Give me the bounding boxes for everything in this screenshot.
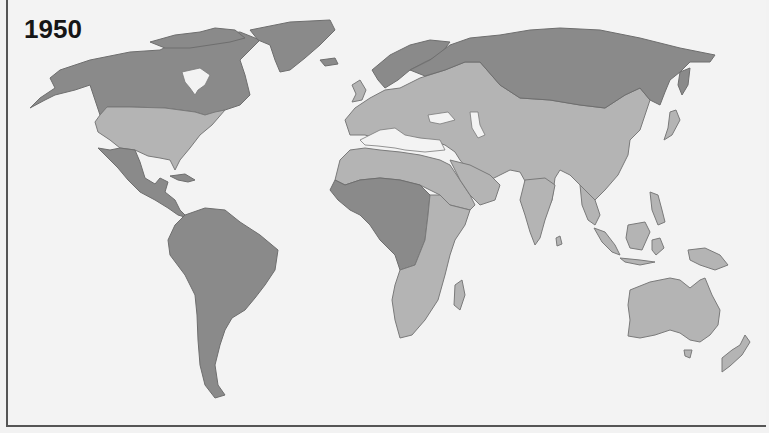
region-philippines — [650, 192, 665, 225]
region-borneo — [626, 222, 650, 250]
region-south-america — [168, 208, 278, 398]
region-tasmania — [684, 350, 692, 358]
map-title: 1950 — [24, 14, 82, 45]
region-new-guinea — [688, 248, 728, 270]
region-caribbean — [170, 174, 195, 182]
region-madagascar — [454, 280, 465, 310]
region-iceland — [320, 58, 338, 66]
region-japan — [664, 110, 680, 140]
region-sumatra — [594, 228, 620, 255]
region-central-africa — [330, 178, 430, 270]
region-greenland — [250, 20, 335, 72]
region-sri-lanka — [556, 236, 562, 246]
region-australia — [628, 278, 720, 342]
world-map — [0, 0, 769, 433]
region-java — [620, 258, 655, 265]
region-india — [520, 178, 555, 245]
region-sulawesi — [652, 238, 664, 255]
region-uk — [352, 80, 366, 102]
region-new-zealand — [722, 335, 750, 372]
region-kamchatka — [678, 68, 690, 95]
